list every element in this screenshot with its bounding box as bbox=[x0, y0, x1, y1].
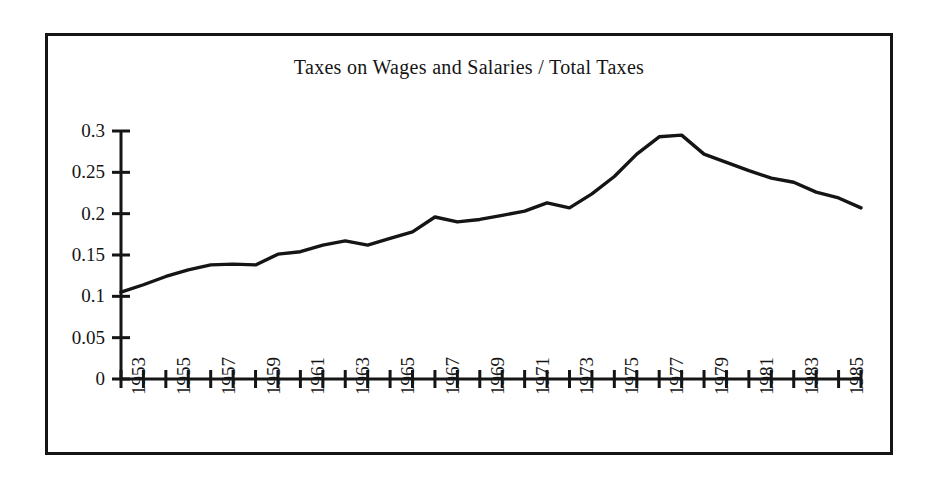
figure-root: Taxes on Wages and Salaries / Total Taxe… bbox=[0, 0, 941, 483]
y-axis-tick-label: 0.05 bbox=[48, 327, 105, 349]
y-axis-tick-label: 0.15 bbox=[48, 244, 105, 266]
x-axis-tick-label: 1979 bbox=[711, 357, 733, 395]
x-axis-tick-label: 1959 bbox=[263, 357, 285, 395]
x-axis-tick-label: 1981 bbox=[756, 357, 778, 395]
x-axis-tick-label: 1967 bbox=[442, 357, 464, 395]
y-axis-tick-label: 0 bbox=[48, 368, 105, 390]
x-axis-tick-label: 1965 bbox=[397, 357, 419, 395]
x-axis-tick-label: 1985 bbox=[846, 357, 868, 395]
x-axis-tick-label: 1953 bbox=[128, 357, 150, 395]
x-axis-tick-label: 1977 bbox=[666, 357, 688, 395]
axes bbox=[121, 131, 861, 379]
x-axis-tick-label: 1973 bbox=[576, 357, 598, 395]
x-axis-tick-label: 1957 bbox=[218, 357, 240, 395]
y-axis-tick-label: 0.3 bbox=[48, 120, 105, 142]
x-axis-tick-label: 1969 bbox=[487, 357, 509, 395]
y-axis-tick-label: 0.2 bbox=[48, 203, 105, 225]
chart-frame: Taxes on Wages and Salaries / Total Taxe… bbox=[45, 33, 893, 455]
x-axis-tick-label: 1971 bbox=[532, 357, 554, 395]
data-series-line bbox=[121, 135, 861, 292]
x-axis-tick-label: 1983 bbox=[801, 357, 823, 395]
x-axis-tick-label: 1963 bbox=[352, 357, 374, 395]
y-axis-tick-label: 0.1 bbox=[48, 285, 105, 307]
x-axis-tick-label: 1955 bbox=[173, 357, 195, 395]
x-axis-tick-label: 1961 bbox=[307, 357, 329, 395]
x-axis-tick-label: 1975 bbox=[621, 357, 643, 395]
y-axis-tick-label: 0.25 bbox=[48, 161, 105, 183]
